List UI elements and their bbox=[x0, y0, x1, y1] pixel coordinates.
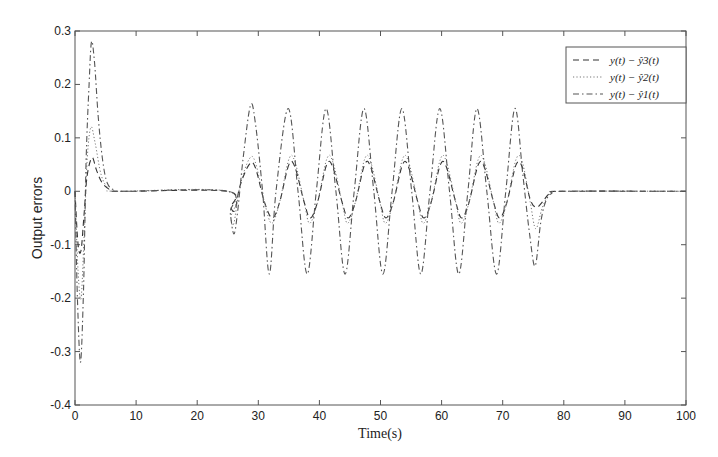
x-tick-label: 40 bbox=[313, 409, 327, 423]
y-tick-label: 0 bbox=[64, 184, 71, 198]
x-tick-label: 100 bbox=[676, 409, 696, 423]
x-tick-label: 70 bbox=[496, 409, 510, 423]
y-tick-label: 0.1 bbox=[54, 131, 71, 145]
x-tick-label: 50 bbox=[374, 409, 388, 423]
legend-label: y(t) − ŷ1(t) bbox=[609, 88, 659, 101]
output-errors-chart: -0.4-0.3-0.2-0.100.10.20.3 0102030405060… bbox=[0, 0, 718, 457]
x-tick-label: 30 bbox=[252, 409, 266, 423]
y-tick-label: -0.1 bbox=[50, 238, 71, 252]
legend-label: y(t) − ŷ2(t) bbox=[609, 71, 659, 84]
y-tick-label: 0.2 bbox=[54, 77, 71, 91]
x-tick-label: 20 bbox=[191, 409, 205, 423]
y-tick-label: -0.4 bbox=[50, 398, 71, 412]
x-tick-label: 0 bbox=[72, 409, 79, 423]
legend: y(t) − ŷ3(t)y(t) − ŷ2(t)y(t) − ŷ1(t) bbox=[566, 47, 686, 103]
y-tick-label: -0.2 bbox=[50, 291, 71, 305]
x-axis-title: Time(s) bbox=[358, 426, 402, 442]
y-tick-label: 0.3 bbox=[54, 24, 71, 38]
y-axis-title: Output errors bbox=[29, 177, 45, 259]
x-tick-label: 10 bbox=[129, 409, 143, 423]
y-tick-label: -0.3 bbox=[50, 345, 71, 359]
legend-label: y(t) − ŷ3(t) bbox=[609, 54, 659, 67]
x-tick-label: 80 bbox=[557, 409, 571, 423]
x-tick-label: 90 bbox=[618, 409, 632, 423]
x-tick-label: 60 bbox=[435, 409, 449, 423]
